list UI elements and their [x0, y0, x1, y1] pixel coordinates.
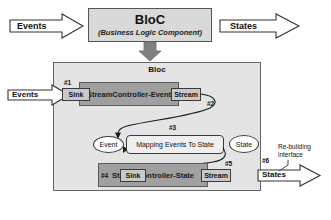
top-events-arrow-label: Events: [17, 21, 47, 31]
step-tag-3: #3: [169, 124, 176, 131]
rebuilding-interface-line1: Re-building: [278, 143, 311, 151]
step-tag-4: #4: [101, 172, 108, 179]
bloc-subtitle: (Business Logic Component): [98, 28, 202, 38]
bloc-title: BloC: [135, 13, 165, 27]
input-events-arrow-label: Events: [12, 90, 38, 99]
stream-controller-state-bar: StreamController-State: [98, 163, 208, 187]
top-states-arrow: States: [220, 14, 300, 38]
diagram-canvas: Events BloC (Business Logic Component) S…: [0, 0, 331, 220]
step-tag-5: #5: [225, 160, 232, 167]
step-tag-6: #6: [262, 157, 269, 164]
top-states-arrow-label: States: [230, 21, 257, 31]
bloc-title-box: BloC (Business Logic Component): [88, 8, 212, 42]
bloc-container-label: Bloc: [53, 65, 261, 74]
annotation-pointer-line: [276, 158, 290, 170]
rebuilding-interface-annotation: Re-building interface: [278, 143, 311, 159]
event-ellipse-label: Event: [100, 141, 118, 148]
down-arrow-icon: [138, 42, 162, 62]
step-tag-1: #1: [64, 79, 71, 86]
top-events-arrow: Events: [10, 14, 84, 38]
state-stream-box: Stream: [201, 169, 231, 182]
mapping-events-to-state-label: Mapping Events To State: [136, 141, 214, 148]
state-ellipse-label: State: [236, 141, 252, 148]
state-stream-label: Stream: [204, 172, 228, 179]
state-sink-label: Sink: [126, 172, 141, 179]
state-sink-box: Sink: [120, 169, 146, 182]
